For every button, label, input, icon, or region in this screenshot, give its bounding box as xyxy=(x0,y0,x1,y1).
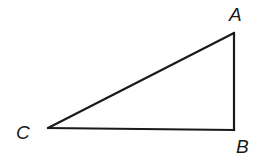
triangle-diagram xyxy=(0,0,262,163)
side-ca xyxy=(48,33,234,128)
side-bc xyxy=(48,128,234,130)
vertex-label-c: C xyxy=(16,123,30,142)
vertex-label-a: A xyxy=(229,5,242,24)
vertex-label-b: B xyxy=(236,137,249,156)
